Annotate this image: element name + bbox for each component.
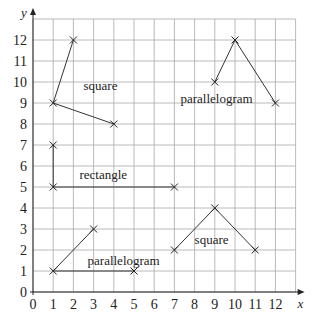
y-tick-label: 12 <box>13 33 27 48</box>
y-tick-label: 7 <box>20 138 27 153</box>
x-tick-label: 11 <box>248 297 261 312</box>
shape-label: parallelogram <box>180 91 252 106</box>
x-tick-label: 9 <box>211 297 218 312</box>
x-tick-label: 12 <box>268 297 282 312</box>
y-tick-label: 4 <box>20 201 27 216</box>
y-tick-label: 9 <box>20 96 27 111</box>
shape-label: parallelogram <box>88 253 160 268</box>
y-tick-label: 10 <box>13 75 27 90</box>
y-axis-arrow-icon <box>30 8 36 15</box>
y-axis-label: y <box>19 5 27 20</box>
shape-label: rectangle <box>79 167 127 182</box>
x-tick-label: 3 <box>90 297 97 312</box>
y-tick-label: 6 <box>20 159 27 174</box>
x-tick-label: 5 <box>131 297 138 312</box>
y-tick-label: 8 <box>20 117 27 132</box>
x-axis-label: x <box>297 296 304 311</box>
y-tick-label: 11 <box>14 54 27 69</box>
shape-parallelogram: parallelogram <box>180 37 278 107</box>
x-tick-label: 4 <box>110 297 117 312</box>
y-tick-label: 1 <box>20 264 27 279</box>
x-tick-label: 0 <box>30 297 37 312</box>
axes: yx <box>19 5 305 311</box>
shape-label: square <box>195 232 229 247</box>
shape-label: square <box>84 78 118 93</box>
coordinate-grid-diagram: yx squareparallelogramrectangleparallelo… <box>0 0 312 325</box>
y-tick-label: 5 <box>20 180 27 195</box>
y-tick-label: 2 <box>20 243 27 258</box>
x-tick-label: 1 <box>50 297 57 312</box>
y-tick-label: 3 <box>20 222 27 237</box>
x-tick-label: 8 <box>191 297 198 312</box>
x-tick-label: 7 <box>171 297 178 312</box>
x-tick-label: 10 <box>228 297 242 312</box>
shape-square: square <box>50 37 118 128</box>
x-tick-label: 6 <box>151 297 158 312</box>
shapes: squareparallelogramrectangleparallelogra… <box>50 37 279 275</box>
y-tick-label: 0 <box>20 285 27 300</box>
x-axis-arrow-icon <box>298 289 305 295</box>
x-tick-label: 2 <box>70 297 77 312</box>
